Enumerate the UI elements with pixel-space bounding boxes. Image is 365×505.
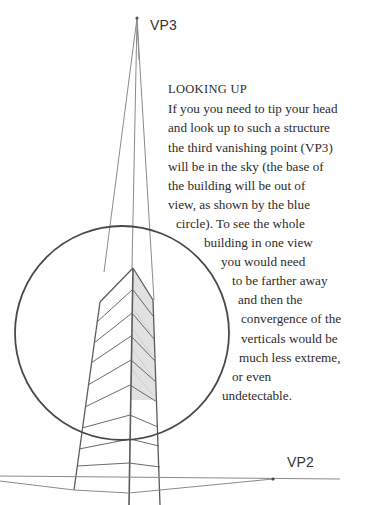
caption-line: verticals would be (241, 329, 338, 348)
caption-line: view, as shown by the blue (168, 195, 310, 214)
caption-line: or even (232, 367, 271, 386)
caption-line: undetectable. (222, 386, 292, 405)
caption-line: to be farther away (232, 271, 328, 290)
vp3-point (135, 16, 138, 19)
vp2-point (271, 477, 274, 480)
vp2-label: VP2 (287, 454, 314, 470)
caption-line: building in one view (204, 233, 313, 252)
horizon-lines (0, 476, 340, 493)
caption-line: the third vanishing point (VP3) (168, 138, 333, 157)
field-of-view-circle (15, 226, 229, 440)
caption-line: and look up to such a structure (168, 118, 330, 137)
caption-line: you would need (221, 252, 305, 271)
caption-heading: LOOKING UP (168, 80, 247, 99)
vp3-convergence-lines (104, 18, 154, 300)
caption-line: If you you need to tip your head (168, 99, 338, 118)
perspective-diagram (0, 0, 365, 505)
building-right-face-shade (130, 268, 156, 400)
caption-line: will be in the sky (the base of (168, 157, 324, 176)
caption-line: and then the (238, 290, 302, 309)
caption-line: the building will be out of (168, 176, 305, 195)
caption-line: much less extreme, (239, 348, 340, 367)
vp3-label: VP3 (150, 17, 177, 33)
caption-line: circle). To see the whole (176, 214, 305, 233)
caption-line: convergence of the (241, 309, 341, 328)
